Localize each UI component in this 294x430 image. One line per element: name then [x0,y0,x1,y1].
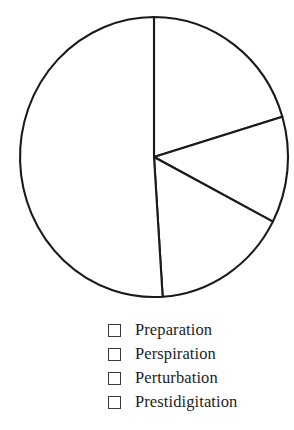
legend-swatch-icon [108,324,121,337]
legend-swatch-icon [108,348,121,361]
legend-item-preparation[interactable]: Preparation [108,318,212,342]
legend-swatch-icon [108,396,121,409]
legend: PreparationPerspirationPerturbationPrest… [0,318,294,430]
legend-item-perspiration[interactable]: Perspiration [108,342,216,366]
pie-svg [0,0,294,310]
legend-item-label: Perturbation [135,369,218,387]
legend-item-label: Prestidigitation [135,393,237,411]
legend-item-label: Perspiration [135,345,216,363]
legend-item-label: Preparation [135,321,212,339]
pie-chart-figure: PreparationPerspirationPerturbationPrest… [0,0,294,430]
pie-slice-prestidigitation[interactable] [20,17,163,297]
legend-item-perturbation[interactable]: Perturbation [108,366,218,390]
legend-swatch-icon [108,372,121,385]
pie-plot-area [0,0,294,310]
legend-item-prestidigitation[interactable]: Prestidigitation [108,390,237,414]
pie-slice-group [20,17,288,297]
